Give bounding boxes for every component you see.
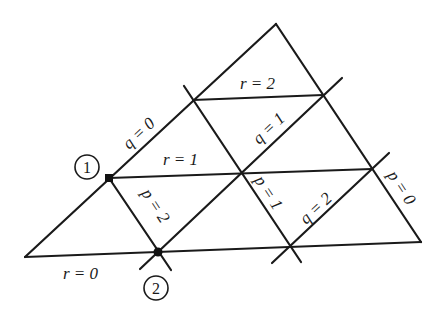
outer-triangle: [25, 24, 421, 257]
label-p0: p = 0: [383, 166, 420, 209]
triangular-grid-diagram: r = 2 r = 1 r = 0 q = 0 q = 1 q = 2 p = …: [0, 0, 446, 314]
point-1-label: 1: [83, 159, 91, 176]
line-r2: [193, 95, 323, 100]
edge-q0: [25, 24, 276, 257]
point-1: 1: [75, 155, 113, 182]
label-p2: p = 2: [137, 184, 174, 227]
point-2-marker: [154, 248, 163, 257]
label-r0: r = 0: [63, 264, 99, 283]
point-1-marker: [105, 174, 113, 182]
edge-r0: [25, 242, 421, 257]
point-2: 2: [144, 248, 168, 301]
point-2-label: 2: [152, 280, 160, 297]
label-q1: q = 1: [249, 109, 289, 148]
label-r2: r = 2: [240, 74, 276, 93]
edge-p0: [276, 24, 421, 242]
label-q0: q = 0: [119, 113, 159, 152]
label-r1: r = 1: [163, 150, 198, 169]
line-p2: [109, 178, 171, 270]
